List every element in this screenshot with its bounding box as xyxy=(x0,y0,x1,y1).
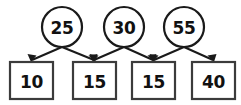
edge-line xyxy=(124,47,153,60)
circle-node-group: 25 30 55 xyxy=(42,7,204,47)
edge-line xyxy=(32,47,62,60)
edge-circle1-to-box1 xyxy=(28,47,63,62)
box-node-label: 15 xyxy=(142,72,165,92)
diagram-canvas: 25 30 55 10 15 15 xyxy=(0,0,241,105)
edge-line xyxy=(62,47,94,60)
tree-sum-diagram: 25 30 55 10 15 15 xyxy=(0,0,241,105)
circle-node-label: 55 xyxy=(172,18,195,38)
edge-group xyxy=(28,47,217,62)
box-node-3[interactable]: 15 xyxy=(132,62,175,99)
circle-node-1[interactable]: 25 xyxy=(42,7,82,47)
edge-line xyxy=(154,47,184,60)
box-node-label: 40 xyxy=(202,72,226,92)
circle-node-label: 25 xyxy=(50,18,73,38)
box-node-label: 15 xyxy=(83,72,106,92)
circle-node-3[interactable]: 55 xyxy=(164,7,204,47)
edge-line xyxy=(184,47,213,60)
box-node-label: 10 xyxy=(20,72,44,92)
circle-node-2[interactable]: 30 xyxy=(104,7,144,47)
edge-circle3-to-box4 xyxy=(184,47,217,62)
box-node-group: 10 15 15 40 xyxy=(10,62,235,99)
box-node-2[interactable]: 15 xyxy=(73,62,116,99)
circle-node-label: 30 xyxy=(112,18,136,38)
edge-line xyxy=(94,47,124,60)
box-node-4[interactable]: 40 xyxy=(192,62,235,99)
box-node-1[interactable]: 10 xyxy=(10,62,53,99)
